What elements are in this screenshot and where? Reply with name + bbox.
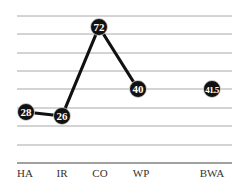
x-tick-label: WP [133, 167, 150, 179]
x-tick-labels: HA IR CO WP BWA [17, 167, 224, 179]
x-tick-label: IR [57, 167, 69, 179]
value-label: 26 [57, 110, 69, 122]
data-point-wp: 40 [130, 81, 147, 98]
data-point-co: 72 [91, 19, 108, 36]
data-point-bwa: 41.5 [204, 81, 221, 98]
gridlines [17, 16, 232, 145]
value-label: 72 [94, 21, 106, 33]
x-tick-label: BWA [200, 167, 225, 179]
data-point-ha: 28 [18, 104, 35, 121]
value-label: 41.5 [205, 85, 219, 95]
x-tick-label: CO [92, 167, 107, 179]
x-tick-label: HA [17, 167, 33, 179]
line-chart: 28 26 72 40 41.5 HA IR CO WP BWA [0, 0, 247, 193]
data-point-ir: 26 [54, 108, 71, 125]
value-label: 40 [133, 83, 145, 95]
value-label: 28 [21, 106, 33, 118]
